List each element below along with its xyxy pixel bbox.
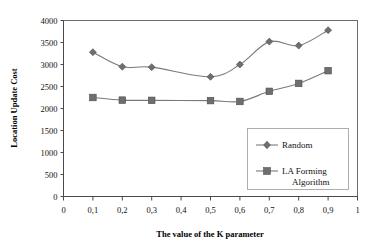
legend-label-random: Random — [282, 140, 313, 150]
y-tick-label: 0 — [53, 192, 57, 202]
x-tick-label: 0,5 — [205, 205, 216, 215]
data-point-square — [325, 67, 332, 74]
y-axis-title: Location Update Cost — [9, 68, 19, 148]
y-tick-label: 1000 — [41, 148, 58, 158]
x-tick-label: 0,2 — [117, 205, 128, 215]
chart-canvas: 05001000150020002500300035004000 00,10,2… — [0, 0, 386, 247]
y-tick-label: 2000 — [41, 104, 58, 114]
data-point-square — [119, 97, 126, 104]
legend-label-la-forming-line1: LA Forming — [282, 166, 327, 176]
y-tick-label: 3000 — [41, 60, 58, 70]
x-tick-label: 0,1 — [88, 205, 99, 215]
y-tick-label: 2500 — [41, 82, 58, 92]
x-tick-label: 0,7 — [264, 205, 275, 215]
y-tick-label: 3500 — [41, 38, 58, 48]
x-tick-label: 0 — [61, 205, 65, 215]
data-point-square — [148, 97, 155, 104]
x-tick-label: 0,8 — [293, 205, 304, 215]
x-tick-label: 0,9 — [323, 205, 334, 215]
x-tick-label: 1 — [355, 205, 359, 215]
legend-label-la-forming-line2: Algorithm — [292, 177, 330, 187]
data-point-square — [207, 97, 214, 104]
x-tick-label: 0,6 — [235, 205, 246, 215]
y-tick-label: 4000 — [41, 16, 58, 26]
y-tick-label: 500 — [45, 170, 58, 180]
x-axis-title: The value of the K parameter — [156, 229, 264, 239]
square-icon — [264, 168, 271, 175]
line-chart: 05001000150020002500300035004000 00,10,2… — [0, 0, 386, 247]
data-point-square — [295, 80, 302, 87]
chart-legend: Random LA Forming Algorithm — [248, 129, 349, 190]
y-tick-label: 1500 — [41, 126, 58, 136]
data-point-square — [90, 94, 97, 101]
data-point-square — [237, 98, 244, 105]
x-tick-label: 0,4 — [176, 205, 187, 215]
x-tick-label: 0,3 — [146, 205, 157, 215]
data-point-square — [266, 88, 273, 95]
